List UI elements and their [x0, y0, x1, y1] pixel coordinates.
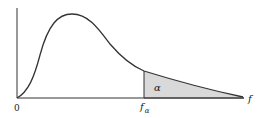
alpha-label: α — [154, 82, 161, 93]
x-axis-label: f — [247, 93, 254, 104]
f-distribution-chart: 0 fα α f — [0, 0, 267, 118]
critical-value-label: fα — [139, 101, 150, 115]
density-curve — [17, 14, 243, 98]
origin-label: 0 — [14, 103, 20, 113]
